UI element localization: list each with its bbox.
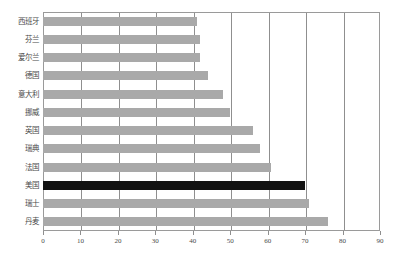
bar-意大利: [43, 90, 223, 99]
bar-row: [43, 144, 380, 153]
bar-瑞士: [43, 199, 309, 208]
bar-row: [43, 163, 380, 172]
x-tick-0: [43, 231, 44, 235]
x-tick-label-90: 90: [377, 237, 384, 245]
category-label-瑞士: 瑞士: [25, 199, 39, 208]
bar-row: [43, 108, 380, 117]
category-label-德国: 德国: [25, 71, 39, 80]
category-label-挪威: 挪威: [25, 108, 39, 117]
x-tick-40: [193, 231, 194, 235]
category-label-西班牙: 西班牙: [18, 17, 39, 26]
category-label-爱尔兰: 爱尔兰: [18, 53, 39, 62]
x-tick-20: [118, 231, 119, 235]
category-label-丹麦: 丹麦: [25, 217, 39, 226]
x-tick-label-30: 30: [152, 237, 159, 245]
x-tick-10: [80, 231, 81, 235]
x-tick-label-50: 50: [227, 237, 234, 245]
bar-row: [43, 181, 380, 190]
x-tick-label-70: 70: [302, 237, 309, 245]
bar-chart: 西班牙芬兰爱尔兰德国意大利挪威英国瑞典法国美国瑞士丹麦 010203040506…: [0, 0, 409, 263]
bar-瑞典: [43, 144, 260, 153]
bar-row: [43, 35, 380, 44]
x-tick-label-40: 40: [189, 237, 196, 245]
bar-row: [43, 90, 380, 99]
x-tick-label-0: 0: [41, 237, 45, 245]
x-tick-label-60: 60: [264, 237, 271, 245]
category-axis-labels: 西班牙芬兰爱尔兰德国意大利挪威英国瑞典法国美国瑞士丹麦: [0, 12, 41, 231]
x-tick-label-80: 80: [339, 237, 346, 245]
bar-row: [43, 126, 380, 135]
category-label-法国: 法国: [25, 163, 39, 172]
category-label-英国: 英国: [25, 126, 39, 135]
bar-芬兰: [43, 35, 200, 44]
category-label-瑞典: 瑞典: [25, 144, 39, 153]
x-tick-label-20: 20: [114, 237, 121, 245]
category-label-意大利: 意大利: [18, 90, 39, 99]
bar-德国: [43, 71, 208, 80]
bar-row: [43, 17, 380, 26]
bar-美国: [43, 181, 305, 190]
x-tick-80: [343, 231, 344, 235]
x-tick-30: [155, 231, 156, 235]
x-tick-90: [380, 231, 381, 235]
bar-row: [43, 71, 380, 80]
bars-layer: [43, 12, 380, 231]
category-label-芬兰: 芬兰: [25, 35, 39, 44]
bar-row: [43, 53, 380, 62]
bar-挪威: [43, 108, 230, 117]
x-tick-label-10: 10: [77, 237, 84, 245]
bar-法国: [43, 163, 271, 172]
bar-丹麦: [43, 217, 328, 226]
x-tick-60: [268, 231, 269, 235]
value-axis: 0102030405060708090: [43, 231, 380, 261]
bar-row: [43, 199, 380, 208]
x-tick-50: [230, 231, 231, 235]
bar-爱尔兰: [43, 53, 200, 62]
bar-西班牙: [43, 17, 197, 26]
x-tick-70: [305, 231, 306, 235]
bar-row: [43, 217, 380, 226]
bar-英国: [43, 126, 253, 135]
category-label-美国: 美国: [25, 181, 39, 190]
